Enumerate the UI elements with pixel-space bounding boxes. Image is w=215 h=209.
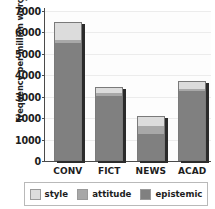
tick-mark [42, 161, 45, 162]
tick-mark [42, 32, 45, 33]
legend-label-attitude: attitude [92, 189, 131, 199]
x-tick-label-conv: CONV [53, 166, 82, 176]
tick-mark [42, 140, 45, 141]
plot-area: 01000200030004000500060007000 CONVFICTNE… [45, 11, 211, 161]
y-tick-label: 2000 [15, 113, 41, 124]
y-tick-label: 5000 [15, 48, 41, 59]
segment-attitude[interactable] [137, 126, 165, 135]
y-axis-line [44, 8, 45, 161]
y-tick-label: 0 [35, 156, 41, 167]
gridline [45, 11, 211, 12]
bar-chart: g frequency per million words 0100020003… [0, 0, 215, 209]
legend-swatch-style [30, 189, 41, 200]
chart-legend: styleattitudeepistemic [24, 182, 208, 206]
y-tick-label: 1000 [15, 134, 41, 145]
segment-epistemic[interactable] [178, 91, 206, 161]
segment-style[interactable] [137, 116, 165, 125]
legend-item-style[interactable]: style [30, 189, 69, 200]
x-tick-label-fict: FICT [98, 166, 121, 176]
y-tick-label: 4000 [15, 70, 41, 81]
segment-style[interactable] [54, 22, 82, 40]
segment-epistemic[interactable] [137, 134, 165, 161]
y-tick-label: 3000 [15, 91, 41, 102]
segment-style[interactable] [178, 81, 206, 89]
tick-mark [42, 97, 45, 98]
legend-label-epistemic: epistemic [155, 189, 202, 199]
y-axis-title: frequency per million words [15, 0, 25, 127]
bar-fict[interactable]: FICT [95, 87, 123, 161]
segment-epistemic[interactable] [95, 96, 123, 161]
legend-label-style: style [45, 189, 69, 199]
tick-mark [42, 75, 45, 76]
x-tick-label-acad: ACAD [178, 166, 206, 176]
legend-item-attitude[interactable]: attitude [77, 189, 131, 200]
legend-swatch-epistemic [140, 189, 151, 200]
bar-acad[interactable]: ACAD [178, 81, 206, 161]
bar-news[interactable]: NEWS [137, 116, 165, 161]
y-tick-label: 7000 [15, 6, 41, 17]
x-tick-label-news: NEWS [136, 166, 167, 176]
tick-mark [42, 118, 45, 119]
bar-conv[interactable]: CONV [54, 22, 82, 161]
y-tick-label: 6000 [15, 27, 41, 38]
tick-mark [42, 54, 45, 55]
legend-item-epistemic[interactable]: epistemic [140, 189, 202, 200]
segment-epistemic[interactable] [54, 43, 82, 161]
tick-mark [42, 11, 45, 12]
legend-swatch-attitude [77, 189, 88, 200]
